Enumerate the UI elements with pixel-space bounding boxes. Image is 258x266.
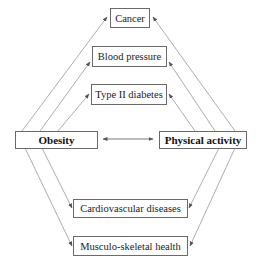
arrow-obesity-musculo bbox=[25, 148, 72, 246]
arrow-activity-musculo bbox=[190, 148, 235, 246]
outcome-cancer: Cancer bbox=[110, 8, 150, 28]
outcome-blood-pressure: Blood pressure bbox=[92, 46, 167, 67]
arrow-obesity-cancer bbox=[22, 17, 107, 131]
arrow-activity-cardio bbox=[189, 148, 219, 208]
factor-obesity: Obesity bbox=[15, 131, 98, 149]
outcome-musculo-skeletal-health: Musculo-skeletal health bbox=[73, 236, 188, 256]
arrow-activity-diabetes bbox=[169, 94, 195, 131]
factor-physical-activity: Physical activity bbox=[159, 131, 247, 149]
outcome-cardiovascular-diseases: Cardiovascular diseases bbox=[73, 199, 188, 218]
arrow-activity-blood-pressure bbox=[169, 62, 215, 131]
arrow-obesity-cardio bbox=[42, 148, 72, 208]
arrow-activity-cancer bbox=[153, 17, 235, 131]
outcome-type-ii-diabetes: Type II diabetes bbox=[91, 84, 167, 105]
